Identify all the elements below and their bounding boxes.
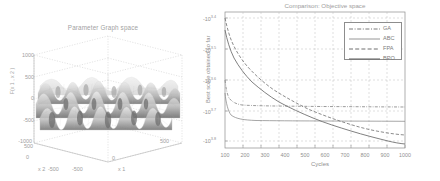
legend-swatch-ga-icon [349, 28, 380, 30]
legend-item-abc: ABC [345, 34, 401, 43]
legend-item-bpo: BPO [345, 54, 401, 63]
parameter-graph-space-panel: Parameter Graph space F(x 1 , x 2 ) 1000… [0, 0, 200, 181]
legend-item-fpa: FPA [345, 44, 401, 53]
legend-label-bpo: BPO [383, 55, 395, 61]
surface-plot-svg [0, 0, 200, 181]
legend-swatch-abc-icon [349, 38, 380, 40]
figure-container: Parameter Graph space F(x 1 , x 2 ) 1000… [0, 0, 440, 181]
legend-label-abc: ABC [383, 35, 395, 41]
legend-label-ga: GA [383, 25, 391, 31]
objective-space-panel: Comparison: Objective space Best score o… [200, 0, 440, 181]
chart-legend: GA ABC FPA BPO [344, 22, 402, 60]
legend-item-ga: GA [345, 24, 401, 33]
legend-swatch-bpo-icon [349, 58, 380, 60]
legend-swatch-fpa-icon [349, 48, 380, 50]
objective-chart-svg [200, 0, 440, 181]
legend-label-fpa: FPA [383, 45, 393, 51]
